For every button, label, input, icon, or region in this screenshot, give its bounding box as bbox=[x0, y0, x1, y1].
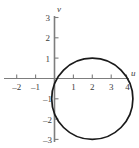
figure-container: 3 2 1 –1 –2 –3 –2 –1 1 2 3 4 u v bbox=[0, 0, 139, 148]
x-axis-label: u bbox=[131, 68, 136, 78]
x-tick-label-2: 2 bbox=[90, 82, 95, 92]
y-tick-label-neg1: –1 bbox=[42, 94, 52, 104]
x-tick-label-1: 1 bbox=[71, 82, 76, 92]
x-tick-label-4: 4 bbox=[125, 82, 130, 92]
y-tick-label-neg2: –2 bbox=[42, 115, 52, 125]
circle-curve bbox=[52, 58, 133, 139]
y-tick-label-2: 2 bbox=[46, 33, 51, 43]
x-tick-label-neg1: –1 bbox=[30, 82, 40, 92]
x-tick-label-neg2: –2 bbox=[11, 82, 21, 92]
x-tick-label-3: 3 bbox=[109, 82, 114, 92]
y-tick-label-1: 1 bbox=[46, 54, 51, 64]
plot-canvas: 3 2 1 –1 –2 –3 –2 –1 1 2 3 4 u v bbox=[0, 0, 139, 148]
y-tick-label-neg3: –3 bbox=[42, 135, 53, 145]
y-tick-label-3: 3 bbox=[46, 13, 51, 23]
y-axis-label: v bbox=[57, 4, 61, 14]
